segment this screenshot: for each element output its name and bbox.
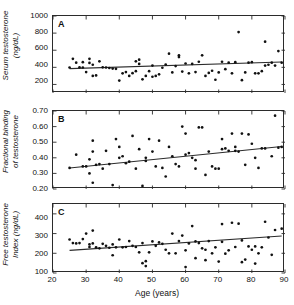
panel-a-canvas (53, 16, 285, 93)
panel-b-ytick-050: 0.50 (24, 137, 48, 146)
panel-c-ytick-100: 100 (24, 267, 48, 276)
figure-testosterone-vs-age: Serum testosterone(ng/dL) 1000 800 600 4… (0, 0, 294, 305)
panel-a-ytick-200: 200 (24, 75, 48, 84)
panel-c-ytick-300: 300 (24, 231, 48, 240)
xtick-80: 80 (246, 275, 255, 284)
panel-b-ytick-030: 0.30 (24, 168, 48, 177)
xtick-60: 60 (180, 275, 189, 284)
panel-c-ytick-400: 400 (24, 213, 48, 222)
panel-c: Free testosteroneIndex (ng/dL) 400 300 2… (0, 195, 294, 305)
panel-c-y-axis-label: Free testosteroneIndex (ng/dL) (1, 193, 20, 277)
xtick-70: 70 (213, 275, 222, 284)
x-axis-label: Age (years) (22, 288, 292, 298)
panel-a-ytick-1000: 1000 (24, 11, 48, 20)
panel-a-plot-area: A (52, 15, 284, 92)
panel-b-ytick-020: 0.20 (24, 184, 48, 193)
panel-b-ytick-070: 0.70 (24, 106, 48, 115)
xtick-20: 20 (48, 275, 57, 284)
panel-b-ytick-060: 0.60 (24, 121, 48, 130)
panel-b-canvas (53, 111, 285, 189)
panel-a-ytick-800: 800 (24, 27, 48, 36)
panel-c-plot-area: C (52, 203, 284, 272)
panel-c-ytick-200: 200 (24, 249, 48, 258)
xtick-30: 30 (81, 275, 90, 284)
xtick-40: 40 (114, 275, 123, 284)
xtick-50: 50 (147, 275, 156, 284)
panel-c-canvas (53, 204, 285, 273)
panel-b-ytick-040: 0.40 (24, 152, 48, 161)
panel-b-plot-area: B (52, 110, 284, 188)
panel-a: Serum testosterone(ng/dL) 1000 800 600 4… (0, 0, 294, 100)
panel-a-y-axis-label: Serum testosterone(ng/dL) (1, 4, 20, 88)
panel-a-ytick-600: 600 (24, 43, 48, 52)
xtick-90: 90 (280, 275, 289, 284)
panel-b: Fractional bindingof testosterone 0.70 0… (0, 100, 294, 195)
panel-b-y-axis-label: Fractional bindingof testosterone (1, 100, 20, 184)
panel-a-ytick-400: 400 (24, 59, 48, 68)
